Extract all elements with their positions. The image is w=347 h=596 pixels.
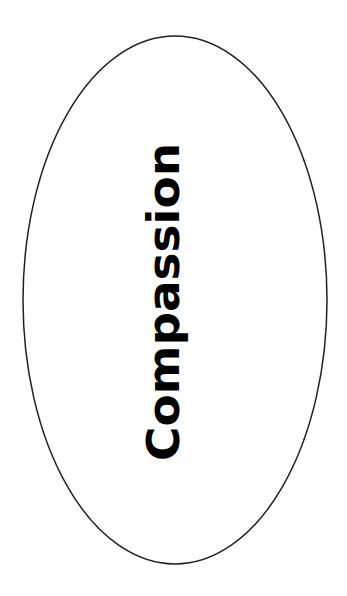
diagram-canvas: Compassion [0, 0, 347, 596]
node-label: Compassion [138, 143, 189, 461]
